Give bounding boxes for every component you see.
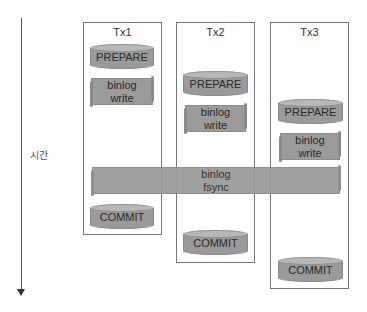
time-axis-arrow-icon	[17, 289, 25, 296]
tx2-lane: Tx2	[176, 22, 255, 263]
tx1-commit-label: COMMIT	[90, 211, 154, 223]
tx3-binlog-write-scroll: binlog write	[280, 133, 340, 160]
tx2-prepare-cylinder: PREPARE	[183, 71, 248, 96]
tx1-binlog-write-scroll: binlog write	[91, 78, 153, 105]
tx2-commit-cylinder: COMMIT	[183, 230, 248, 255]
binlog-fsync-scroll: binlog fsync	[92, 167, 340, 194]
tx1-prepare-label: PREPARE	[90, 51, 154, 63]
tx2-binlog-write-scroll: binlog write	[185, 105, 246, 132]
tx1-binlog-write-label: binlog write	[92, 79, 152, 105]
tx3-commit-cylinder: COMMIT	[278, 257, 343, 282]
tx1-commit-cylinder: COMMIT	[90, 204, 154, 229]
tx1-title: Tx1	[84, 26, 161, 38]
tx3-prepare-label: PREPARE	[278, 106, 343, 118]
binlog-fsync-label: binlog fsync	[93, 168, 339, 194]
time-axis-label: 시간	[30, 147, 48, 162]
tx3-prepare-cylinder: PREPARE	[278, 99, 343, 124]
tx3-commit-label: COMMIT	[278, 264, 343, 276]
tx2-binlog-write-label: binlog write	[186, 106, 245, 132]
time-axis-line	[21, 18, 22, 292]
tx2-commit-label: COMMIT	[183, 237, 248, 249]
tx2-title: Tx2	[177, 26, 254, 38]
tx1-prepare-cylinder: PREPARE	[90, 44, 154, 69]
tx3-title: Tx3	[271, 26, 348, 38]
tx3-binlog-write-label: binlog write	[281, 134, 339, 160]
tx2-prepare-label: PREPARE	[183, 78, 248, 90]
